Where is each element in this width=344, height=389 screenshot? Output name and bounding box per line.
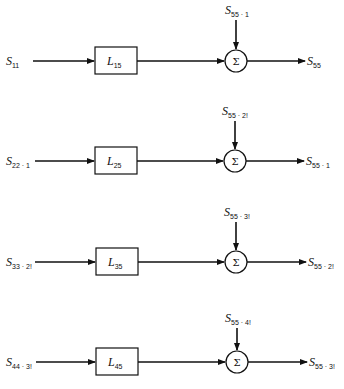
sigma-icon: Σ [233,357,240,368]
row-2: S22 · 1 L25 Σ S55 · 2! S55 · 1 [6,104,330,174]
input-label: S22 · 1 [6,154,30,169]
row-4: S44 · 3! L45 Σ S55 · 4! S55 · 3! [6,311,335,375]
transfer-block [95,147,137,174]
top-input-label: S55 · 4! [225,311,251,326]
row-1: S11 L15 Σ S55 · 1 S55 [6,3,321,74]
sigma-icon: Σ [232,56,239,67]
output-label: S55 · 1 [306,154,330,169]
sigma-icon: Σ [231,156,238,167]
row-3: S33 · 2! L35 Σ S55 · 3! S55 · 2! [6,205,334,275]
top-input-label: S55 · 3! [224,205,250,220]
transfer-block [95,47,137,74]
output-label: S55 · 2! [308,255,334,270]
top-input-label: S55 · 2! [222,104,248,119]
output-label: S55 [307,54,321,69]
transfer-block [96,348,138,375]
transfer-block [96,248,138,275]
block-diagram: S11 L15 Σ S55 · 1 S55 S22 · 1 L25 Σ S55 … [0,0,344,389]
input-label: S44 · 3! [6,355,32,370]
input-label: S33 · 2! [6,255,32,270]
top-input-label: S55 · 1 [225,3,249,18]
output-label: S55 · 3! [309,355,335,370]
sigma-icon: Σ [232,257,239,268]
input-label: S11 [6,54,19,69]
